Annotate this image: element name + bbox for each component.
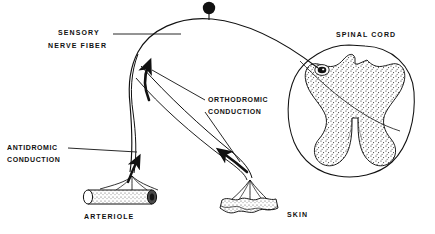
label-skin: SKIN [287, 210, 308, 220]
dorsal-horn-cell-icon [315, 65, 329, 76]
label-antidromic-line2: CONDUCTION [7, 155, 60, 165]
figure-canvas: SENSORY NERVE FIBER ORTHODROMIC CONDUCTI… [0, 0, 435, 234]
nerve-cell-body-icon [203, 2, 215, 20]
skin-graphic [220, 180, 278, 213]
label-sensory-line1: SENSORY [58, 28, 100, 38]
label-arteriole: ARTERIOLE [84, 212, 134, 222]
leader-line-orthodromic-upper [152, 70, 205, 100]
label-orthodromic-line2: CONDUCTION [208, 107, 261, 117]
label-spinal-cord: SPINAL CORD [336, 30, 396, 40]
arteriole-graphic [83, 176, 158, 204]
label-orthodromic-line1: ORTHODROMIC [208, 95, 268, 105]
spinal-cord-graphic [288, 45, 414, 177]
antidromic-arrow-icon [145, 66, 149, 100]
label-sensory-line2: NERVE FIBER [48, 41, 107, 51]
leader-line-antidromic [68, 148, 137, 152]
leader-line-orthodromic-lower [205, 112, 240, 162]
label-antidromic-line1: ANTIDROMIC [7, 143, 58, 153]
